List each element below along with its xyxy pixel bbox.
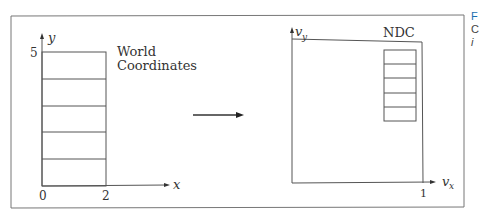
caption-fragment-1: F: [471, 10, 478, 23]
ndc-x-axis: [292, 182, 432, 183]
world-title-line2: Coordinates: [117, 58, 197, 73]
ndc-viewport-rect: [384, 50, 416, 121]
ndc-panel: [290, 27, 436, 184]
ndc-x-arrow-icon: [430, 180, 436, 184]
coordinate-mapping-diagram: y 5 World Coordinates x 0 2 v y NDC v x …: [0, 0, 482, 219]
world-x-label: x: [173, 177, 181, 192]
ndc-x-tick: 1: [420, 187, 427, 200]
ndc-y-sub: y: [301, 32, 308, 42]
world-window-rect: [42, 52, 106, 186]
outer-frame: [11, 15, 464, 208]
ndc-x-sub: x: [449, 181, 454, 191]
world-y-label: y: [47, 30, 56, 45]
caption-fragment-3: i: [471, 36, 473, 49]
ndc-title: NDC: [383, 25, 415, 40]
world-title-line1: World: [117, 44, 156, 59]
world-x-tick: 2: [102, 189, 110, 203]
world-x-arrow-icon: [164, 183, 170, 187]
world-origin: 0: [39, 189, 47, 203]
caption-fragment-2: C: [471, 23, 479, 36]
mapping-arrow-head-icon: [236, 112, 244, 118]
ndc-right-edge: [422, 42, 423, 183]
world-y-arrow-icon: [40, 33, 44, 39]
ndc-y-arrow-icon: [290, 27, 294, 33]
world-y-tick: 5: [30, 46, 38, 60]
